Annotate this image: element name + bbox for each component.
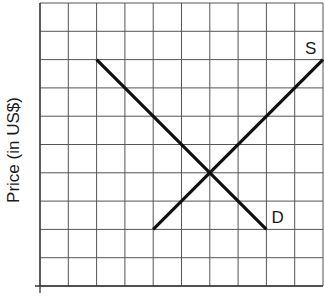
curve-labels: DS [271, 39, 316, 228]
supply-demand-chart: DS [0, 0, 325, 305]
supply-label: S [305, 39, 316, 58]
chart-axes [35, 3, 323, 293]
demand-label: D [271, 208, 283, 227]
